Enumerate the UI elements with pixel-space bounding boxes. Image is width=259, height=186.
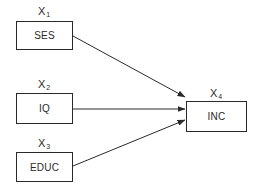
node-ses: SES	[16, 21, 73, 50]
node-label: SES	[34, 30, 55, 41]
node-x3-variable-label: X3	[38, 137, 50, 150]
variable-subscript: 4	[218, 93, 222, 100]
variable-subscript: 3	[46, 143, 50, 150]
node-label: INC	[208, 111, 226, 122]
arrow-educ-to-inc	[73, 120, 185, 166]
node-x2-variable-label: X2	[38, 78, 50, 91]
variable-subscript: 2	[46, 84, 50, 91]
variable-subscript: 1	[46, 11, 50, 18]
variable-name: X	[38, 5, 45, 17]
arrow-ses-to-inc	[73, 36, 185, 97]
variable-name: X	[38, 137, 45, 149]
node-x4-variable-label: X4	[210, 87, 222, 100]
node-iq: IQ	[16, 93, 73, 124]
variable-name: X	[38, 78, 45, 90]
node-educ: EDUC	[16, 152, 73, 182]
node-x1-variable-label: X1	[38, 5, 50, 18]
node-label: EDUC	[30, 162, 59, 173]
variable-name: X	[210, 87, 217, 99]
node-label: IQ	[39, 103, 50, 114]
node-inc: INC	[186, 101, 247, 132]
